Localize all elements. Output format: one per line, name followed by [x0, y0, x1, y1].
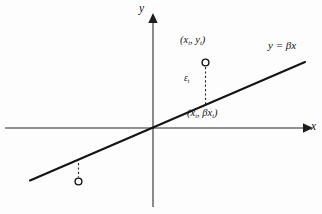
observed-point-prefix: (x — [180, 34, 188, 45]
data-point-observed-lower — [75, 178, 82, 185]
regression-line — [30, 62, 305, 181]
data-point-observed-upper — [202, 59, 209, 66]
diagram-canvas — [0, 0, 322, 214]
line-equation-text: y = βx — [268, 39, 296, 51]
fitted-point-subscript-1: t — [195, 112, 197, 119]
residual-subscript: t — [188, 78, 190, 84]
regression-diagram: y x (xt, yt) εt (xt, βxt) y = βx — [0, 0, 322, 214]
fitted-point-suffix: ) — [214, 107, 218, 118]
observed-point-label: (xt, yt) — [180, 35, 205, 46]
observed-point-subscript-2: t — [200, 39, 202, 46]
x-axis-label: x — [311, 121, 316, 133]
y-axis-arrowhead-icon — [148, 13, 157, 23]
observed-point-suffix: ) — [202, 34, 206, 45]
fitted-point-prefix: (x — [187, 107, 195, 118]
y-axis-label: y — [139, 3, 144, 15]
x-axis-label-text: x — [311, 120, 316, 132]
fitted-point-middle: , βx — [197, 107, 212, 118]
observed-point-middle: , y — [190, 34, 200, 45]
fitted-point-label: (xt, βxt) — [187, 108, 217, 119]
y-axis-label-text: y — [139, 2, 144, 14]
line-equation-label: y = βx — [268, 40, 296, 51]
fitted-point-subscript-2: t — [212, 112, 214, 119]
observed-point-subscript-1: t — [188, 39, 190, 46]
residual-label: εt — [184, 74, 189, 84]
